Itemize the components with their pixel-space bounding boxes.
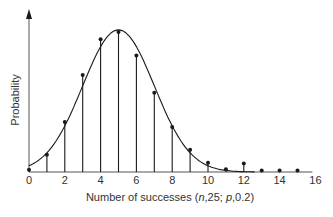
- y-axis-arrow-icon: [26, 9, 32, 19]
- data-point-dot: [99, 37, 103, 41]
- data-point-dot: [224, 167, 228, 171]
- x-tick-labels: 0246810121416: [26, 174, 322, 186]
- x-axis-label: Number of successes (n,25; p,0.2): [86, 191, 254, 203]
- x-tick-label: 4: [98, 174, 104, 186]
- data-point-dot: [206, 161, 210, 165]
- x-tick-label: 10: [202, 174, 214, 186]
- data-point-dot: [152, 91, 156, 95]
- data-point-dot: [296, 169, 300, 173]
- x-tick-label: 12: [238, 174, 250, 186]
- data-point-dot: [188, 148, 192, 152]
- x-tick-label: 6: [133, 174, 139, 186]
- x-tick-label: 16: [309, 174, 321, 186]
- normal-curve-path: [29, 30, 255, 172]
- binomial-stem-chart: 0246810121416 Number of successes (n,25;…: [0, 0, 333, 217]
- axes: [26, 9, 312, 172]
- data-point-dot: [278, 169, 282, 173]
- data-point-dot: [45, 153, 49, 157]
- data-point-dot: [260, 169, 264, 173]
- data-point-dot: [81, 73, 85, 77]
- data-point-dot: [117, 30, 121, 34]
- x-tick-label: 0: [26, 174, 32, 186]
- probability-stems: [27, 30, 300, 172]
- y-axis-label: Probability: [9, 74, 21, 126]
- data-point-dot: [134, 54, 138, 58]
- x-tick-label: 14: [273, 174, 285, 186]
- data-point-dot: [63, 120, 67, 124]
- data-point-dot: [242, 161, 246, 165]
- x-tick-label: 8: [169, 174, 175, 186]
- data-point-dot: [27, 168, 31, 172]
- data-point-dot: [170, 125, 174, 129]
- x-tick-label: 2: [62, 174, 68, 186]
- normal-curve: [29, 30, 255, 172]
